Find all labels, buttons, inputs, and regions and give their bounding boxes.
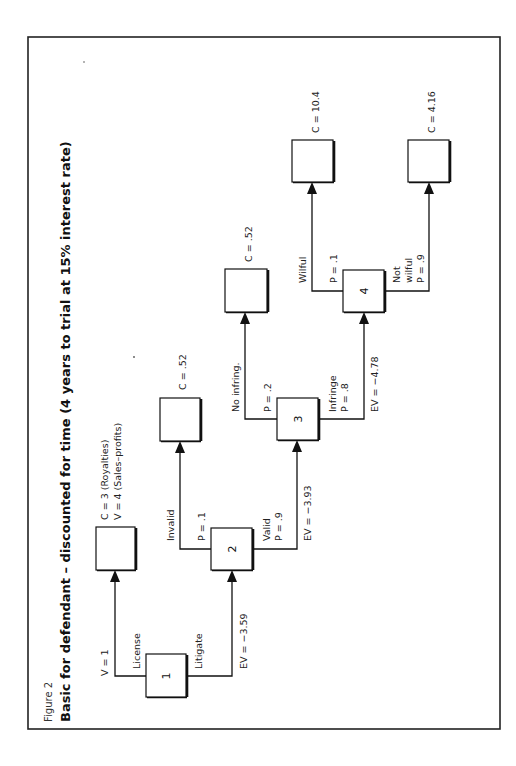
node-label: 4 bbox=[358, 288, 371, 295]
arrow-icon bbox=[307, 182, 317, 194]
chance-node-2: 2 bbox=[211, 528, 253, 570]
license-outcome-line2: V = 4 (Sales–profits) bbox=[112, 423, 123, 520]
litigate-ev: EV = −3.59 bbox=[238, 613, 249, 669]
outcome-box-license bbox=[96, 527, 136, 570]
chance-node-4: 4 bbox=[343, 270, 385, 312]
no-infringement-label: No infring. bbox=[230, 362, 241, 412]
chance-node-3: 3 bbox=[277, 398, 319, 440]
decision-node-1: 1 bbox=[146, 654, 187, 697]
arrow-icon bbox=[175, 441, 185, 453]
wilful-label: Wilful bbox=[297, 257, 308, 283]
invalid-label: Invalid bbox=[165, 509, 176, 541]
arrow-icon bbox=[424, 182, 434, 194]
print-speck bbox=[133, 356, 135, 358]
figure-title: Basic for defendant – discounted for tim… bbox=[58, 141, 73, 722]
arrow-icon bbox=[292, 440, 302, 452]
arrow-icon bbox=[359, 312, 369, 324]
license-label: License bbox=[131, 633, 142, 669]
arrow-icon bbox=[110, 570, 120, 582]
node-label: 3 bbox=[292, 416, 305, 423]
license-outcome-line1: C = 3 (Royalties) bbox=[99, 440, 110, 520]
print-speck bbox=[83, 61, 85, 63]
decision-tree-figure: Figure 2 Basic for defendant – discounte… bbox=[0, 0, 516, 766]
litigate-label: Litigate bbox=[193, 633, 204, 669]
invalid-prob: P = .1 bbox=[196, 512, 207, 541]
valid-ev: EV = −3.93 bbox=[302, 485, 313, 541]
outcome-box-not-wilful bbox=[408, 140, 450, 182]
no-infringement-outcome: C = .52 bbox=[243, 226, 254, 262]
arrow-icon bbox=[240, 312, 250, 324]
outcome-box-no-infringement bbox=[225, 269, 268, 312]
valid-label: Valid bbox=[261, 518, 272, 541]
outcome-box-wilful bbox=[292, 140, 334, 182]
invalid-outcome: C = .52 bbox=[177, 354, 188, 390]
wilful-prob: P = .1 bbox=[328, 254, 339, 283]
not-wilful-prob: P = .9 bbox=[415, 254, 426, 283]
node-label: 1 bbox=[160, 673, 173, 680]
outcome-box-invalid bbox=[160, 398, 201, 441]
arrow-icon bbox=[227, 570, 237, 582]
wilful-outcome: C = 10.4 bbox=[310, 91, 321, 133]
infringe-label: Infringe bbox=[327, 375, 338, 412]
infringe-ev: EV = −4.78 bbox=[369, 356, 380, 412]
not-wilful-outcome: C = 4.16 bbox=[426, 91, 437, 133]
no-infringement-prob: P = .2 bbox=[262, 383, 273, 412]
license-value: V = 1 bbox=[99, 649, 110, 676]
infringe-prob: P = .8 bbox=[339, 383, 350, 412]
valid-prob: P = .9 bbox=[273, 512, 284, 541]
not-wilful-label-line2: wilful bbox=[403, 258, 414, 283]
not-wilful-label-line1: Not bbox=[391, 266, 402, 283]
node-label: 2 bbox=[226, 546, 239, 553]
figure-label: Figure 2 bbox=[43, 682, 54, 722]
